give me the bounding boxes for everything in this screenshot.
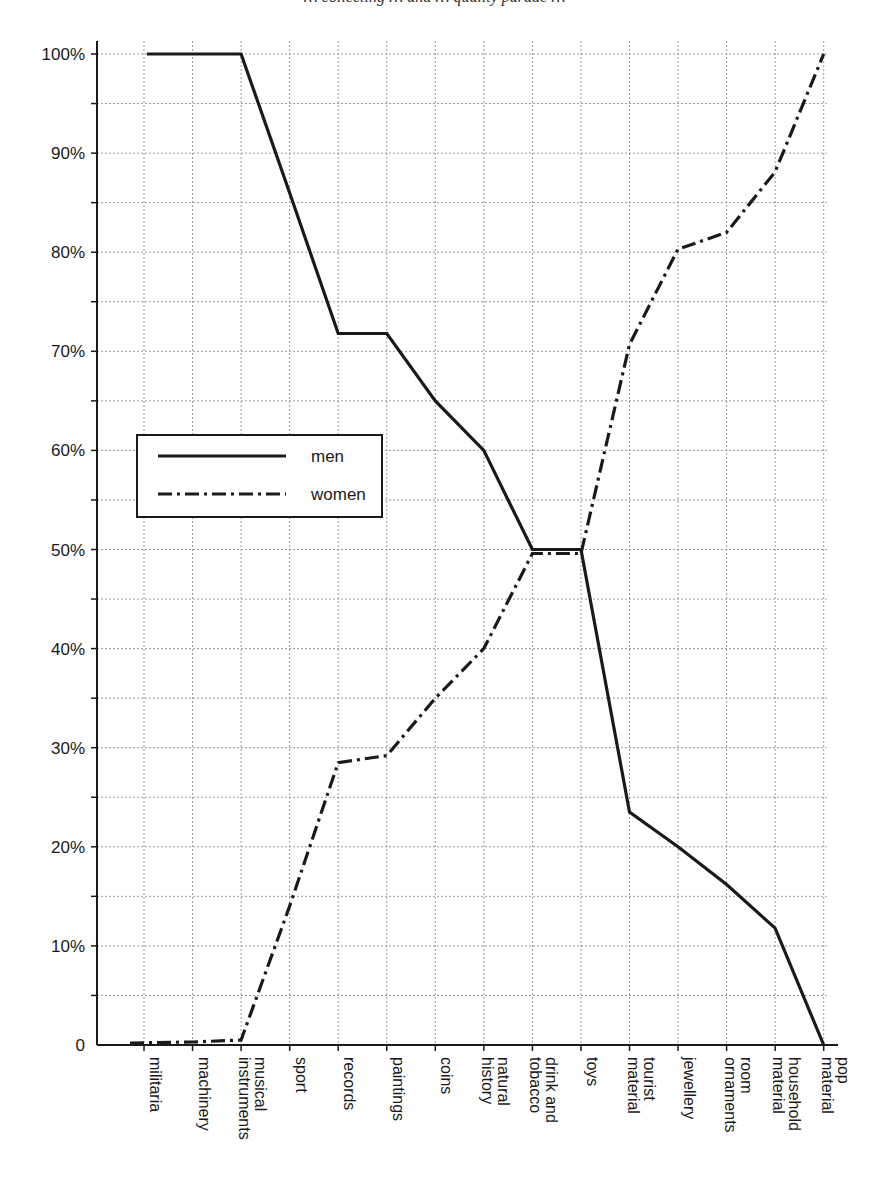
x-tick-label: instruments bbox=[236, 1057, 253, 1140]
x-tick-label: sport bbox=[293, 1057, 310, 1093]
y-tick-label: 40% bbox=[51, 640, 85, 659]
legend-label-men: men bbox=[311, 447, 344, 466]
x-tick-label: ornaments bbox=[722, 1057, 739, 1133]
x-tick-label: pop bbox=[835, 1057, 852, 1084]
y-tick-label: 70% bbox=[51, 342, 85, 361]
y-axis-ticks: 010%20%30%40%50%60%70%80%90%100% bbox=[42, 45, 97, 1055]
y-tick-label: 90% bbox=[51, 144, 85, 163]
x-tick-label: material bbox=[625, 1057, 642, 1114]
y-tick-label: 10% bbox=[51, 937, 85, 956]
x-tick-label: militaria bbox=[147, 1057, 164, 1112]
y-tick-label: 60% bbox=[51, 441, 85, 460]
x-tick-label: tobacco bbox=[527, 1057, 544, 1113]
x-tick-label: material bbox=[770, 1057, 787, 1114]
x-tick-label: machinery bbox=[196, 1057, 213, 1131]
y-tick-label: 30% bbox=[51, 739, 85, 758]
grid-lines bbox=[97, 41, 827, 1045]
x-tick-label: material bbox=[819, 1057, 836, 1114]
x-tick-label: records bbox=[341, 1057, 358, 1110]
x-tick-label: jewellery bbox=[681, 1056, 698, 1119]
y-tick-label: 50% bbox=[51, 541, 85, 560]
x-tick-label: musical bbox=[252, 1057, 269, 1111]
x-tick-label: natural bbox=[495, 1057, 512, 1106]
x-tick-label: tourist bbox=[641, 1057, 658, 1101]
x-tick-label: drink and bbox=[543, 1057, 560, 1123]
legend: menwomen bbox=[137, 435, 382, 517]
legend-box bbox=[137, 435, 382, 517]
x-tick-label: history bbox=[479, 1057, 496, 1104]
y-tick-label: 100% bbox=[42, 45, 85, 64]
y-tick-label: 20% bbox=[51, 838, 85, 857]
y-tick-label: 0 bbox=[76, 1036, 85, 1055]
x-tick-label: household bbox=[786, 1057, 803, 1131]
y-tick-label: 80% bbox=[51, 243, 85, 262]
x-axis-ticks: militariamachinerymusicalinstrumentsspor… bbox=[144, 1045, 852, 1140]
x-tick-label: room bbox=[738, 1057, 755, 1093]
x-tick-label: paintings bbox=[390, 1057, 407, 1121]
line-chart: 010%20%30%40%50%60%70%80%90%100% militar… bbox=[0, 0, 869, 1187]
legend-label-women: women bbox=[310, 485, 366, 504]
x-tick-label: toys bbox=[584, 1057, 601, 1086]
x-tick-label: coins bbox=[438, 1057, 455, 1094]
